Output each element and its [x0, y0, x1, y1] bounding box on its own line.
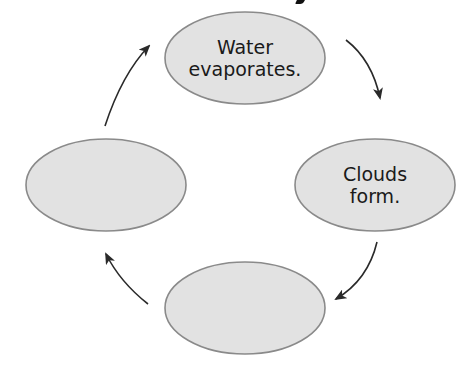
arrow-bottom-to-left — [106, 254, 148, 304]
node-top — [165, 12, 325, 104]
node-left — [26, 139, 186, 231]
arrow-right-to-bottom — [336, 242, 377, 299]
arrow-left-to-top — [105, 46, 149, 126]
arrow-top-to-right — [346, 40, 380, 98]
node-right — [295, 139, 455, 231]
node-bottom — [165, 262, 325, 354]
water-cycle-diagram — [0, 0, 470, 381]
